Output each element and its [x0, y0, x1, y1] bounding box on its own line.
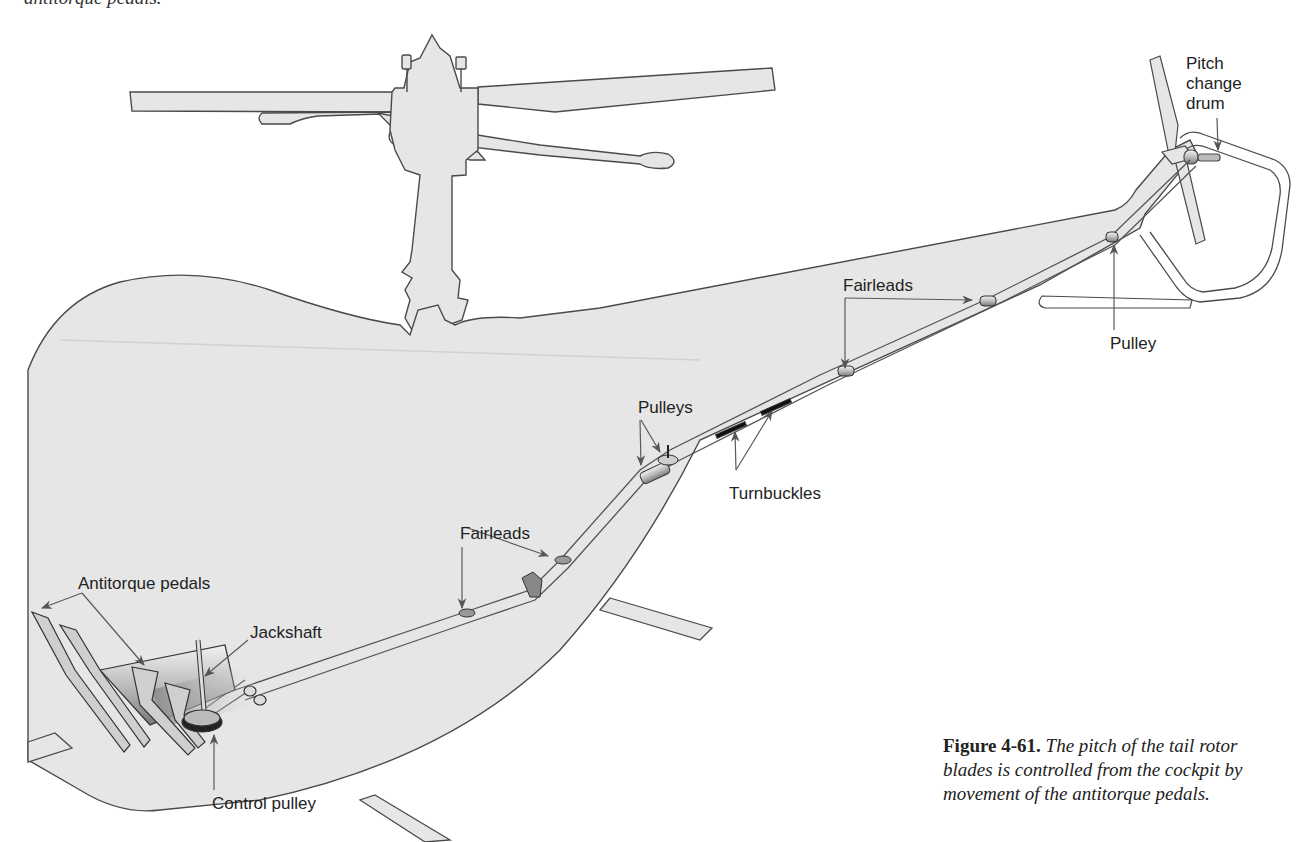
caption-line-3: movement of the antitorque pedals. — [943, 783, 1210, 804]
label-line: Pitch — [1186, 54, 1242, 74]
figure-number: Figure 4-61. — [943, 735, 1041, 756]
caption-line-1: The pitch of the tail rotor — [1046, 735, 1238, 756]
label-line: drum — [1186, 94, 1242, 114]
label-pulleys: Pulleys — [638, 397, 693, 418]
pulley-tail — [1106, 232, 1118, 242]
helicopter-illustration — [0, 0, 1315, 842]
label-fairleads-tailboom: Fairleads — [843, 275, 913, 296]
label-control-pulley: Control pulley — [212, 793, 316, 814]
label-fairleads-cabin: Fairleads — [460, 523, 530, 544]
tail-rotor-control-diagram: antitorque pedals. Pitch change drum Pul… — [0, 0, 1315, 842]
fairlead-boom-2 — [980, 296, 996, 306]
fairlead-boom-1 — [838, 366, 854, 376]
label-antitorque-pedals: Antitorque pedals — [78, 573, 210, 594]
cropped-previous-text: antitorque pedals. — [24, 0, 162, 9]
fairlead-cabin-1 — [459, 609, 475, 617]
caption-line-2: blades is controlled from the cockpit by — [943, 759, 1242, 780]
label-jackshaft: Jackshaft — [250, 622, 322, 643]
label-pulley-tail: Pulley — [1110, 333, 1156, 354]
figure-caption: Figure 4-61. The pitch of the tail rotor… — [943, 734, 1315, 806]
label-turnbuckles: Turnbuckles — [729, 483, 821, 504]
fairlead-cabin-2 — [555, 556, 571, 564]
label-pitch-change-drum: Pitch change drum — [1186, 54, 1242, 114]
label-line: change — [1186, 74, 1242, 94]
